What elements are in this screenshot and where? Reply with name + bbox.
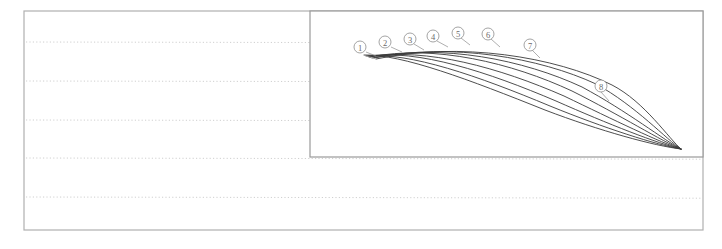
figure-page: 12345678 bbox=[0, 0, 722, 249]
callout-number-2: 2 bbox=[383, 38, 387, 48]
figure-panel bbox=[310, 11, 703, 157]
ruled-line bbox=[26, 197, 701, 198]
callout-number-3: 3 bbox=[408, 35, 412, 45]
figure-canvas: 12345678 bbox=[0, 0, 722, 249]
callout-number-5: 5 bbox=[456, 29, 460, 39]
ruled-line bbox=[26, 158, 701, 159]
callout-number-6: 6 bbox=[486, 30, 490, 40]
callout-number-7: 7 bbox=[528, 41, 532, 51]
callout-number-8: 8 bbox=[599, 82, 603, 92]
callout-number-1: 1 bbox=[358, 43, 362, 53]
